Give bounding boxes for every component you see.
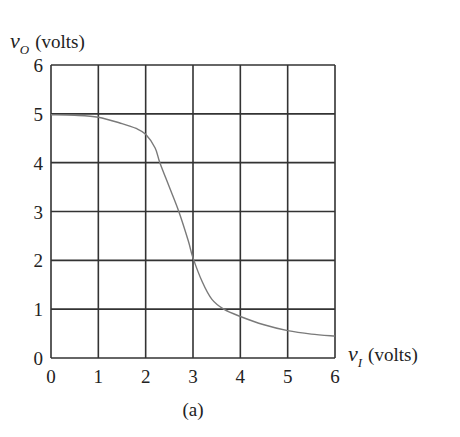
y-tick-labels: 0123456 <box>34 55 44 369</box>
grid <box>51 65 335 358</box>
y-tick-label: 1 <box>34 299 44 320</box>
x-axis-label: vI(volts) <box>348 341 418 370</box>
y-tick-label: 0 <box>34 348 44 369</box>
y-tick-label: 2 <box>34 250 44 271</box>
x-tick-labels: 0123456 <box>46 366 340 387</box>
y-tick-label: 3 <box>34 202 44 223</box>
x-tick-label: 2 <box>141 366 151 387</box>
y-axis-label: vO(volts) <box>10 28 85 57</box>
x-tick-label: 0 <box>46 366 56 387</box>
x-tick-label: 5 <box>283 366 293 387</box>
x-tick-label: 6 <box>330 366 340 387</box>
y-tick-label: 4 <box>34 153 44 174</box>
transfer-characteristic-chart: 0123456 0123456 vO(volts) vI(volts) (a) <box>0 0 460 437</box>
figure-caption: (a) <box>182 399 203 421</box>
x-tick-label: 4 <box>236 366 246 387</box>
y-tick-label: 5 <box>34 104 44 125</box>
x-tick-label: 3 <box>188 366 198 387</box>
x-tick-label: 1 <box>94 366 104 387</box>
y-tick-label: 6 <box>34 55 44 76</box>
